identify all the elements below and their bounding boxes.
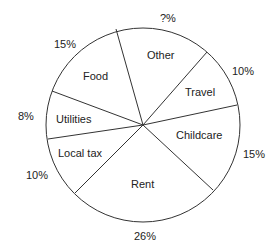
pct-childcare: 15% [243,148,265,160]
pie-chart: Other Travel Childcare Rent Local tax Ut… [0,0,279,251]
pct-utilities: 8% [18,110,34,122]
pct-rent: 26% [134,230,156,242]
slice-label-childcare: Childcare [176,129,222,141]
slice-label-food: Food [83,70,108,82]
pct-local-tax: 10% [26,169,48,181]
slice-label-other: Other [147,49,175,61]
slice-label-utilities: Utilities [56,113,92,125]
slice-label-travel: Travel [185,86,215,98]
slice-label-rent: Rent [131,178,154,190]
pct-travel: 10% [232,65,254,77]
slice-label-local-tax: Local tax [58,147,103,159]
pct-food: 15% [54,38,76,50]
pct-other: ?% [160,12,176,24]
